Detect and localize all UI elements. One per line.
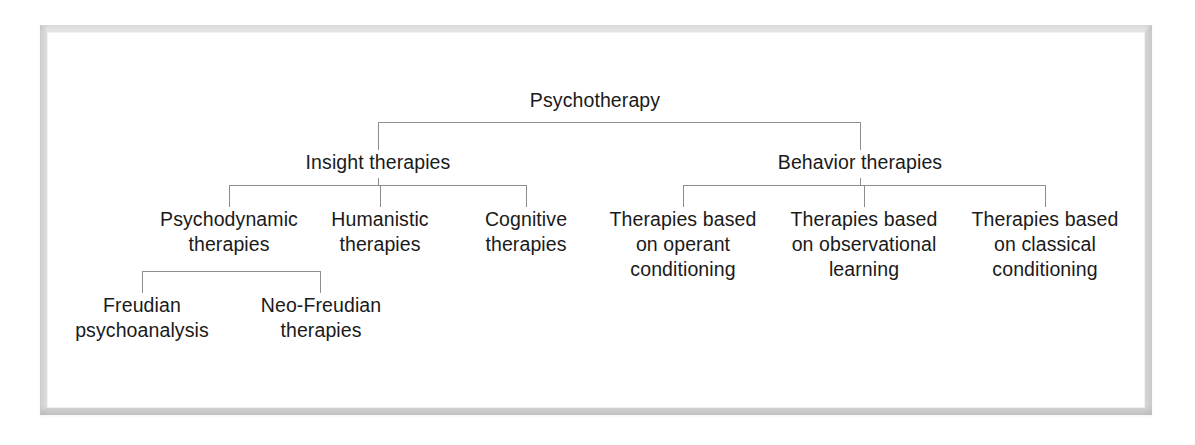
diagram-canvas: Psychotherapy Insight therapies Behavior… [0,0,1195,445]
connector-behavior-to-observational [864,185,865,207]
node-neo-freudian-therapies: Neo-Freudian therapies [236,293,406,343]
node-cognitive-therapies: Cognitive therapies [451,207,601,257]
connector-psychodynamic-to-neofreudian [320,271,321,293]
connector-insight-to-cognitive [526,185,527,207]
node-freudian-psychoanalysis: Freudian psychoanalysis [57,293,227,343]
node-humanistic-therapies: Humanistic therapies [295,207,465,257]
connector-insight-horizontal [229,185,527,186]
node-therapies-observational-learning: Therapies based on observational learnin… [769,207,959,282]
connector-behavior-to-operant [683,185,684,207]
connector-root-to-behavior [860,122,861,150]
connector-behavior-to-classical [1045,185,1046,207]
node-therapies-operant-conditioning: Therapies based on operant conditioning [593,207,773,282]
node-psychodynamic-therapies: Psychodynamic therapies [139,207,319,257]
connector-psychodynamic-horizontal [142,271,321,272]
node-therapies-classical-conditioning: Therapies based on classical conditionin… [955,207,1135,282]
connector-insight-to-humanistic [380,185,381,207]
connector-insight-to-psychodynamic [229,185,230,207]
node-insight-therapies: Insight therapies [278,150,478,175]
node-behavior-therapies: Behavior therapies [760,150,960,175]
connector-psychodynamic-to-freudian [142,271,143,293]
connector-root-to-insight [378,122,379,150]
node-psychotherapy: Psychotherapy [495,88,695,113]
diagram-page: Psychotherapy Insight therapies Behavior… [0,0,1195,445]
connector-root-horizontal [378,122,861,123]
